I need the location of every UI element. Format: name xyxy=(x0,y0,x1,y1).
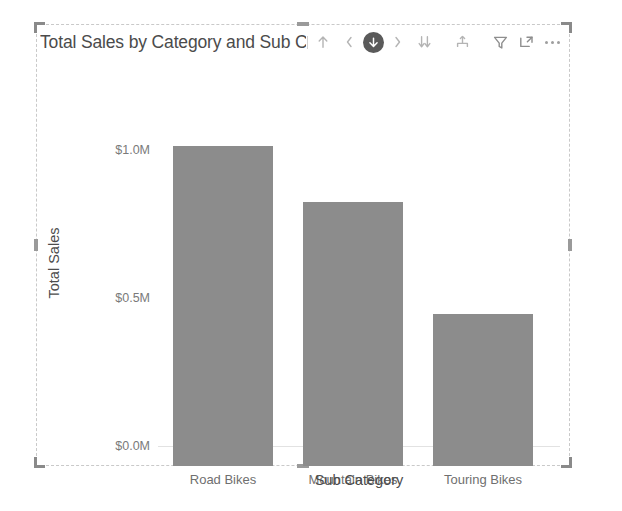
chart-plot-body: Total Sales $0.0M $0.5M $1.0M Road Bikes… xyxy=(36,60,570,466)
drill-down-arrow-icon xyxy=(367,36,380,49)
filter-funnel-icon xyxy=(492,34,509,51)
bar-group-touring-bikes[interactable]: Touring Bikes xyxy=(433,80,533,466)
bar-road-bikes[interactable] xyxy=(173,146,273,466)
arrow-up-icon xyxy=(315,34,331,50)
bar-mountain-bikes[interactable] xyxy=(303,202,403,466)
double-arrow-down-icon xyxy=(416,34,433,50)
plot-area: Road Bikes Mountain Bikes Touring Bikes xyxy=(158,60,560,466)
ellipsis-icon xyxy=(545,41,560,44)
y-tick-label: $0.0M xyxy=(64,439,150,453)
power-bi-visual-container[interactable]: Total Sales by Category and Sub C xyxy=(36,24,570,466)
chevron-left-icon xyxy=(344,34,354,50)
visual-title: Total Sales by Category and Sub C xyxy=(40,32,306,53)
drill-up-button[interactable] xyxy=(311,30,335,54)
filter-button[interactable] xyxy=(488,30,512,54)
visual-header-toolbar xyxy=(306,30,564,54)
toolbar-divider xyxy=(307,36,308,49)
hierarchy-expand-icon xyxy=(454,34,471,50)
expand-all-hierarchy-button[interactable] xyxy=(450,30,474,54)
chevron-right-icon xyxy=(393,34,403,50)
expand-next-level-button[interactable] xyxy=(412,30,436,54)
y-tick-label: $1.0M xyxy=(64,143,150,157)
bar-group-road-bikes[interactable]: Road Bikes xyxy=(173,80,273,466)
y-axis-title: Total Sales xyxy=(46,228,62,299)
drill-mode-right-chevron xyxy=(386,30,410,54)
drill-down-toggle-button[interactable] xyxy=(363,32,384,53)
focus-mode-icon xyxy=(518,34,535,51)
y-axis-tick-labels: $0.0M $0.5M $1.0M xyxy=(64,60,150,466)
bar-touring-bikes[interactable] xyxy=(433,314,533,466)
drill-mode-left-chevron xyxy=(337,30,361,54)
bar-group-mountain-bikes[interactable]: Mountain Bikes xyxy=(303,80,403,466)
x-axis-title: Sub Category xyxy=(158,472,560,488)
visual-header: Total Sales by Category and Sub C xyxy=(36,24,570,60)
focus-mode-button[interactable] xyxy=(514,30,538,54)
more-options-button[interactable] xyxy=(540,30,564,54)
y-tick-label: $0.5M xyxy=(64,291,150,305)
